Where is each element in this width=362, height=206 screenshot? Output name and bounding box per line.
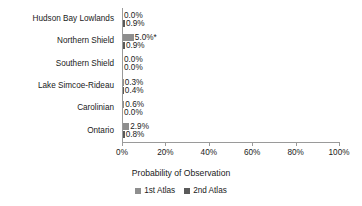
bar-group: 5.0%* 0.9% <box>123 30 340 52</box>
legend-item-series1: 1st Atlas <box>135 186 175 195</box>
x-axis-tick-label: 20% <box>157 148 173 157</box>
bar-row: 0.6% <box>123 101 340 108</box>
x-axis-tick-label: 100% <box>329 148 350 157</box>
bar-group: 0.3% 0.4% <box>123 75 340 97</box>
category-label: Southern Shield <box>0 53 118 75</box>
bar-value-label: 0.8% <box>125 131 145 138</box>
bar-value-label: 0.9% <box>125 42 145 49</box>
category-label: Northern Shield <box>0 30 118 52</box>
x-axis-tick-label: 0% <box>116 148 128 157</box>
bars-container: 0.0% 0.9% 5.0%* 0.9% 0.0% 0.0% 0.3% 0.4%… <box>123 8 340 142</box>
x-axis-tick <box>122 142 123 146</box>
bar-row: 0.3% <box>123 79 340 86</box>
bar-group: 0.0% 0.9% <box>123 8 340 30</box>
x-axis-tick-label: 80% <box>287 148 303 157</box>
bar-group: 0.0% 0.0% <box>123 53 340 75</box>
bar-value-label: 2.9% <box>129 123 149 130</box>
bar-row: 0.0% <box>123 64 340 71</box>
bar-row: 0.0% <box>123 56 340 63</box>
bar-value-label: 0.0% <box>123 12 143 19</box>
bar-value-label: 0.0% <box>123 56 143 63</box>
bar-group: 0.6% 0.0% <box>123 97 340 119</box>
x-axis-tick <box>252 142 253 146</box>
legend-item-series2: 2nd Atlas <box>184 186 227 195</box>
legend-swatch-icon <box>135 188 141 194</box>
bar-row: 0.8% <box>123 131 340 138</box>
category-label: Hudson Bay Lowlands <box>0 8 118 30</box>
bar-group: 2.9% 0.8% <box>123 120 340 142</box>
bar-value-label: 0.6% <box>124 101 144 108</box>
x-axis-line <box>122 142 340 143</box>
bar-row: 5.0%* <box>123 34 340 41</box>
x-axis-tick-label: 60% <box>244 148 260 157</box>
bar-row: 2.9% <box>123 123 340 130</box>
x-axis-tick <box>165 142 166 146</box>
bar-value-label: 0.0% <box>123 64 143 71</box>
bar-row: 0.0% <box>123 12 340 19</box>
category-label: Lake Simcoe-Rideau <box>0 75 118 97</box>
x-axis-tick <box>339 142 340 146</box>
bar-value-label: 0.3% <box>124 79 144 86</box>
bar-row: 0.0% <box>123 109 340 116</box>
plot-area: Hudson Bay Lowlands Northern Shield Sout… <box>0 0 362 150</box>
bar-value-label: 0.9% <box>125 20 145 27</box>
bar-value-label: 0.4% <box>124 87 144 94</box>
legend-label: 1st Atlas <box>144 186 175 195</box>
bar-series1 <box>123 34 134 41</box>
x-axis-title: Probability of Observation <box>0 168 362 178</box>
category-label: Ontario <box>0 120 118 142</box>
category-label: Carolinian <box>0 97 118 119</box>
chart-legend: 1st Atlas 2nd Atlas <box>0 186 362 195</box>
category-axis-labels: Hudson Bay Lowlands Northern Shield Sout… <box>0 8 118 142</box>
x-axis-tick <box>209 142 210 146</box>
bar-row: 0.9% <box>123 20 340 27</box>
bar-row: 0.4% <box>123 87 340 94</box>
x-axis-tick-label: 40% <box>201 148 217 157</box>
bar-chart: Hudson Bay Lowlands Northern Shield Sout… <box>0 0 362 206</box>
bar-row: 0.9% <box>123 42 340 49</box>
legend-swatch-icon <box>184 188 190 194</box>
bar-value-label: 0.0% <box>123 109 143 116</box>
legend-label: 2nd Atlas <box>193 186 227 195</box>
bar-value-label: 5.0%* <box>134 34 157 41</box>
x-axis-tick <box>296 142 297 146</box>
